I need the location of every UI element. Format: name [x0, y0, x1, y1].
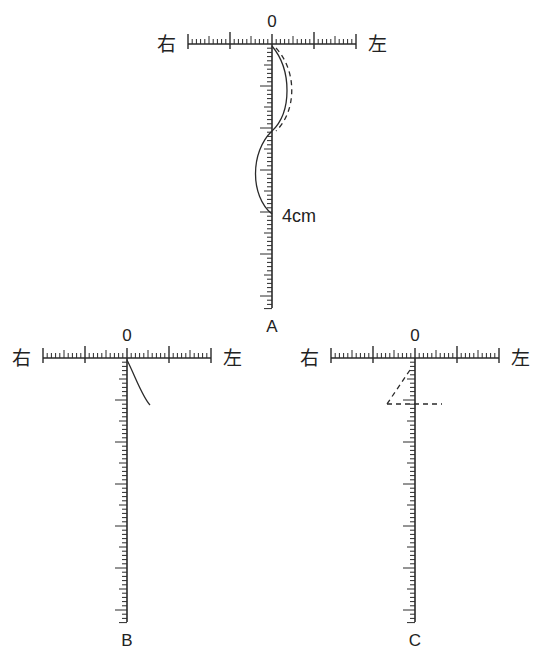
right-side-label: 右	[157, 33, 176, 55]
panel-b: 0右左B	[12, 326, 242, 650]
solid-curve	[127, 360, 150, 405]
panel-letter: C	[409, 631, 421, 650]
panel-letter: A	[266, 317, 278, 336]
dashed-curve	[387, 370, 410, 404]
measurement-diagram: 0右左A4cm 0右左B 0右左C	[0, 0, 544, 665]
left-side-label: 左	[368, 33, 387, 55]
dashed-curve	[276, 48, 292, 131]
panel-letter: B	[121, 631, 132, 650]
right-side-label: 右	[12, 347, 31, 369]
panel-c: 0右左C	[300, 326, 530, 650]
right-side-label: 右	[300, 347, 319, 369]
left-side-label: 左	[511, 347, 530, 369]
zero-label: 0	[267, 12, 276, 31]
zero-label: 0	[122, 326, 131, 345]
distance-annotation: 4cm	[282, 206, 316, 226]
panel-a: 0右左A4cm	[157, 12, 387, 336]
solid-curve	[256, 131, 273, 214]
zero-label: 0	[410, 326, 419, 345]
left-side-label: 左	[223, 347, 242, 369]
